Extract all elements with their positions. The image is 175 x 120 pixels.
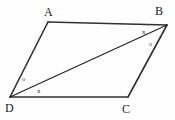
side-AB-line: [48, 22, 167, 25]
angle-mark-ABD-cross-icon: x: [142, 29, 146, 36]
vertex-label-C: C: [122, 103, 130, 115]
geometry-figure: A B C D o x x o: [0, 0, 175, 120]
angle-mark-BDC-cross-icon: x: [37, 88, 41, 95]
parallelogram-svg: [0, 0, 175, 120]
side-BC-line: [128, 25, 167, 97]
angle-mark-DBC-circle-icon: o: [149, 41, 152, 48]
vertex-label-A: A: [44, 6, 53, 18]
vertex-label-B: B: [155, 5, 163, 17]
angle-mark-ADB-circle-icon: o: [22, 76, 25, 83]
side-DA-line: [10, 22, 48, 97]
vertex-label-D: D: [5, 102, 14, 114]
